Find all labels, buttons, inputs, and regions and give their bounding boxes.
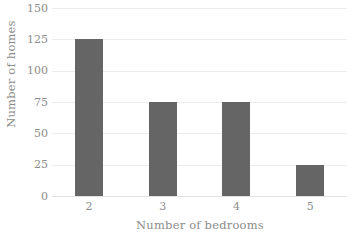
bar[interactable]: [296, 165, 324, 196]
y-tick-label: 150: [2, 3, 48, 14]
y-axis-tick-labels: 0255075100125150: [0, 8, 48, 196]
y-tick-label: 125: [2, 34, 48, 45]
x-axis-tick-labels: 2345: [52, 201, 347, 215]
bar-chart: Number of homes 0255075100125150 2345 Nu…: [0, 0, 361, 235]
y-tick-label: 25: [2, 159, 48, 170]
x-axis-baseline: [52, 196, 347, 197]
bar[interactable]: [149, 102, 177, 196]
y-tick-label: 100: [2, 65, 48, 76]
gridline: [52, 8, 347, 9]
plot-area: [52, 8, 347, 196]
x-tick-label: 4: [216, 201, 256, 213]
y-tick-label: 75: [2, 97, 48, 108]
x-axis-title: Number of bedrooms: [52, 218, 348, 232]
y-tick-label: 50: [2, 128, 48, 139]
x-tick-label: 2: [69, 201, 109, 213]
bar[interactable]: [75, 39, 103, 196]
x-tick-label: 5: [290, 201, 330, 213]
x-tick-label: 3: [143, 201, 183, 213]
bar[interactable]: [222, 102, 250, 196]
y-tick-label: 0: [2, 191, 48, 202]
